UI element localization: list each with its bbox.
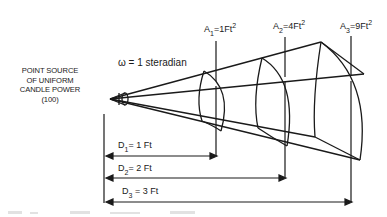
solid-angle-text: = 1 steradian [129, 57, 187, 68]
area-label-3: A3=9Ft2 [340, 21, 372, 32]
scan-artifacts [8, 211, 195, 214]
distance-label-1: D1= 1 Ft [118, 140, 152, 151]
area-label-2: A2=4Ft2 [273, 21, 305, 32]
distance-label-2: D2= 2 Ft [118, 163, 152, 174]
source-label-line: OF UNIFORM [4, 76, 96, 86]
source-label: POINT SOURCE OF UNIFORM CANDLE POWER (10… [4, 66, 96, 104]
solid-angle-label: ω = 1 steradian [118, 58, 187, 68]
source-label-line: (100) [4, 95, 96, 105]
area-label-1: A1=1Ft2 [204, 24, 236, 35]
source-label-line: POINT SOURCE [4, 66, 96, 76]
source-label-line: CANDLE POWER [4, 85, 96, 95]
omega-symbol: ω [118, 57, 126, 68]
inverse-square-diagram [0, 0, 387, 217]
distance-label-3: D3 = 3 Ft [122, 186, 158, 197]
